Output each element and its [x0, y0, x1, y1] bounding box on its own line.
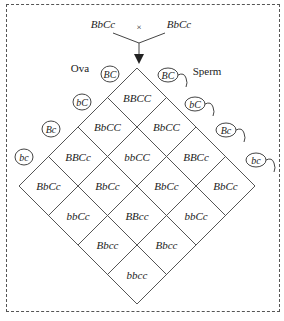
- grid-cell: BbCC: [153, 121, 180, 133]
- grid-cell: BBCc: [65, 151, 91, 163]
- sperm-label: Sperm: [193, 65, 222, 77]
- ova-gamete: bC: [76, 97, 88, 108]
- ova-label: Ova: [71, 62, 89, 74]
- sperm-gamete: BC: [162, 70, 175, 81]
- grid-cell: BbCc: [36, 180, 60, 192]
- grid-cell: bbCc: [66, 210, 89, 222]
- sperm-tail-icon: [266, 159, 275, 172]
- sperm-gamete: bc: [251, 155, 260, 166]
- ova-gamete: Bc: [46, 124, 57, 135]
- grid-cell: bbCC: [124, 151, 150, 163]
- ova-gamete: BC: [104, 69, 117, 80]
- sperm-tail-icon: [236, 129, 245, 142]
- parent-left-genotype: BbCc: [91, 18, 115, 30]
- grid-cell: Bbcc: [97, 239, 119, 251]
- parent-right-genotype: BbCc: [167, 18, 191, 30]
- grid-cell: BBcc: [125, 210, 148, 222]
- arrow-head-icon: [134, 54, 144, 64]
- cross-symbol: ×: [136, 22, 141, 32]
- grid-cell: bbCc: [184, 210, 207, 222]
- sperm-tail-icon: [205, 103, 214, 116]
- cross-arrow-icon: [113, 33, 165, 55]
- grid-cell: BbCc: [154, 180, 178, 192]
- sperm-gamete: bC: [189, 99, 201, 110]
- grid-cell: BbCC: [94, 121, 121, 133]
- grid-cell: Bbcc: [156, 239, 178, 251]
- grid-cell: BbCc: [213, 180, 237, 192]
- grid-cell: BBCc: [183, 151, 209, 163]
- sperm-gamete: Bc: [221, 125, 232, 136]
- grid-cell: BbCc: [95, 180, 119, 192]
- ova-gamete: bc: [19, 152, 28, 163]
- grid-cell: bbcc: [127, 269, 148, 281]
- grid-cell: BBCC: [123, 92, 151, 104]
- sperm-tail-icon: [178, 74, 187, 87]
